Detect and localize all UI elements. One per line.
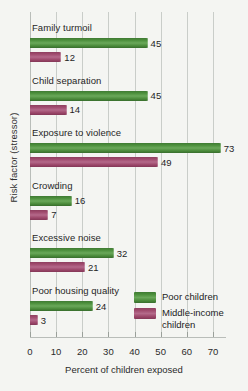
bar-value-label: 45 — [151, 39, 162, 49]
x-axis-tick — [161, 332, 162, 337]
bar-middle — [30, 105, 67, 115]
bar-poor — [30, 248, 114, 258]
bar-poor — [30, 91, 148, 101]
bar-middle — [30, 210, 48, 220]
category-label: Family turmoil — [32, 22, 92, 33]
bar-middle — [30, 315, 38, 325]
plot-area: Family turmoil4512Child separation4514Ex… — [30, 12, 226, 337]
bar-poor — [30, 196, 72, 206]
bar-poor — [30, 143, 221, 153]
legend-label-middle-income-children: Middle-income children — [162, 307, 248, 330]
x-axis-tick-label: 10 — [44, 346, 68, 357]
bar-value-label: 49 — [161, 158, 172, 168]
category-label: Child separation — [32, 75, 101, 86]
bar-value-label: 24 — [96, 302, 107, 312]
y-axis-title: Risk factor (stressor) — [8, 63, 19, 253]
x-axis-tick — [213, 332, 214, 337]
bar-group: Excessive noise3221 — [30, 232, 226, 285]
x-axis-tick — [56, 332, 57, 337]
bar-middle — [30, 157, 158, 167]
x-axis-tick — [30, 332, 31, 337]
bar-middle — [30, 262, 85, 272]
bar-value-label: 7 — [51, 210, 56, 220]
legend-swatch-poor-children — [134, 292, 156, 303]
x-axis-tick-label: 30 — [96, 346, 120, 357]
x-axis-tick — [187, 332, 188, 337]
legend-item-middle-income-children: Middle-income children — [134, 307, 248, 330]
category-label: Exposure to violence — [32, 127, 121, 138]
bar-poor — [30, 38, 148, 48]
x-axis-tick — [82, 332, 83, 337]
bar-group: Family turmoil4512 — [30, 22, 226, 75]
legend: Poor children Middle-income children — [134, 291, 248, 334]
x-axis-title: Percent of children exposed — [0, 364, 248, 375]
legend-item-poor-children: Poor children — [134, 291, 248, 303]
x-axis-tick-label: 50 — [149, 346, 173, 357]
category-label: Crowding — [32, 180, 73, 191]
bar-group: Crowding167 — [30, 180, 226, 233]
bar-chart: Risk factor (stressor) Family turmoil451… — [0, 0, 248, 391]
bar-value-label: 73 — [224, 144, 235, 154]
x-axis-tick-label: 70 — [201, 346, 225, 357]
bar-group: Exposure to violence7349 — [30, 127, 226, 180]
x-axis-tick-label: 20 — [70, 346, 94, 357]
bar-value-label: 16 — [75, 196, 86, 206]
x-axis-tick-label: 0 — [18, 346, 42, 357]
legend-label-poor-children: Poor children — [162, 291, 218, 303]
bar-value-label: 12 — [64, 53, 75, 63]
x-axis-tick-label: 40 — [123, 346, 147, 357]
x-axis-tick — [108, 332, 109, 337]
x-axis-tick — [135, 332, 136, 337]
bar-value-label: 45 — [151, 91, 162, 101]
category-label: Poor housing quality — [32, 285, 119, 296]
x-axis-tick-label: 60 — [175, 346, 199, 357]
legend-swatch-middle-income-children — [134, 308, 156, 319]
bar-value-label: 21 — [88, 263, 99, 273]
bar-value-label: 32 — [117, 249, 128, 259]
bar-group: Child separation4514 — [30, 75, 226, 128]
bar-value-label: 3 — [41, 316, 46, 326]
bar-poor — [30, 301, 93, 311]
bar-middle — [30, 52, 61, 62]
x-axis-line — [30, 337, 226, 338]
bar-value-label: 14 — [70, 105, 81, 115]
category-label: Excessive noise — [32, 232, 101, 243]
